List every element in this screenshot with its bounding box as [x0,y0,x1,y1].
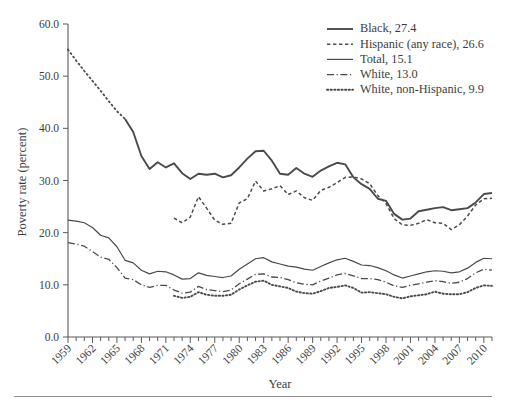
x-tick-label: 2010 [465,342,490,367]
chart-canvas: 0.010.020.030.040.050.060.0 195919621965… [0,0,506,405]
x-tick-label: 1980 [220,342,245,367]
legend-label: White, non-Hispanic, 9.9 [360,82,484,96]
series-line-black-interpolated [68,50,125,119]
legend-label: Black, 27.4 [360,21,416,35]
y-tick-label: 40.0 [39,122,59,134]
y-tick-label: 10.0 [39,279,59,291]
series-line-hispanic-any-race [174,177,492,230]
x-tick-label: 1983 [244,342,269,367]
series-line-total [68,220,492,279]
x-tick-label: 2001 [391,342,416,367]
footer-divider [14,396,492,397]
x-tick-label: 1995 [342,342,367,367]
legend-label: Hispanic (any race), 26.6 [360,37,484,51]
y-axis-tick-group: 0.010.020.030.040.050.060.0 [39,18,68,343]
x-tick-label: 1968 [122,342,147,367]
y-tick-label: 20.0 [39,227,59,239]
series-line-black [125,119,492,220]
x-tick-label: 1974 [171,342,196,367]
y-tick-label: 0.0 [45,331,60,343]
chart-legend: Black, 27.4Hispanic (any race), 26.6Tota… [327,21,484,96]
poverty-rate-chart-figure: 0.010.020.030.040.050.060.0 195919621965… [0,0,506,405]
x-axis-tick-group: 1959196219651968197119741977198019831986… [49,337,492,367]
x-tick-label: 1971 [147,342,172,367]
y-tick-label: 30.0 [39,175,59,187]
y-axis-title: Poverty rate (percent) [15,128,29,237]
x-tick-label: 2007 [440,342,465,367]
series-line-white-non-hispanic [174,281,492,299]
y-tick-label: 50.0 [39,70,59,82]
x-tick-label: 1992 [318,342,343,367]
legend-label: White, 13.0 [360,67,418,81]
x-tick-label: 1959 [49,342,74,367]
legend-label: Total, 15.1 [360,52,413,66]
x-tick-label: 1977 [195,342,220,367]
y-tick-label: 60.0 [39,18,59,30]
x-tick-label: 1998 [367,342,392,367]
x-tick-label: 2004 [416,342,441,367]
x-tick-label: 1965 [98,342,123,367]
x-tick-label: 1962 [73,342,98,367]
x-axis-title: Year [268,377,292,391]
x-tick-label: 1989 [293,342,318,367]
x-tick-label: 1986 [269,342,294,367]
